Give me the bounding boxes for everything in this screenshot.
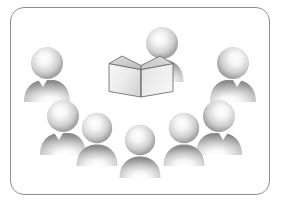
person-glyph xyxy=(118,124,162,178)
person-head xyxy=(217,47,249,79)
open-book-glyph xyxy=(108,55,174,98)
figure-attendee-right-front: Attendee right front xyxy=(162,112,206,166)
person-glyph xyxy=(22,46,72,102)
person-head xyxy=(203,100,235,132)
illustration-root: Presenter Open book xyxy=(0,0,281,209)
illustration-scene: Presenter Open book xyxy=(0,0,281,209)
person-body xyxy=(77,145,118,167)
open-book: Open book xyxy=(108,55,174,98)
figure-attendee-center-front: Attendee center front xyxy=(118,124,162,178)
figure-attendee-left-front: Attendee left front xyxy=(75,112,119,166)
person-glyph xyxy=(208,46,258,102)
figure-attendee-left-back: Attendee left back xyxy=(22,46,72,102)
person-body xyxy=(120,157,161,179)
figure-attendee-right-back: Attendee right back xyxy=(208,46,258,102)
person-body xyxy=(164,145,205,167)
person-glyph xyxy=(75,112,119,166)
person-head xyxy=(125,125,155,155)
person-head xyxy=(31,47,63,79)
person-head xyxy=(82,113,112,143)
person-head xyxy=(169,113,199,143)
person-glyph xyxy=(162,112,206,166)
